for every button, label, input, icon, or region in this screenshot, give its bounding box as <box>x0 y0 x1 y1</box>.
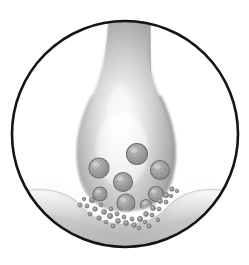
neurotransmitter-particle <box>102 210 107 215</box>
synaptic-vesicle <box>151 161 170 180</box>
neurotransmitter-particle <box>143 220 147 224</box>
neurotransmitter-particle <box>82 197 85 200</box>
neurotransmitter-particle <box>144 212 149 217</box>
synaptic-vesicle <box>127 144 148 165</box>
neurotransmitter-particle <box>170 187 174 191</box>
neurotransmitter-particle <box>169 194 173 198</box>
neurotransmitter-particle <box>150 213 154 217</box>
neurotransmitter-particle <box>156 218 160 222</box>
neurotransmitter-particle <box>93 207 98 212</box>
synapse-illustration: Chemical synapse cross-section <box>0 0 249 265</box>
synaptic-vesicle <box>89 158 109 178</box>
neurotransmitter-particle <box>99 203 103 207</box>
synaptic-vesicle <box>93 187 107 201</box>
neurotransmitter-particle <box>104 220 108 224</box>
neurotransmitter-particle <box>137 226 141 230</box>
neurotransmitter-particle <box>107 213 112 218</box>
neurotransmitter-particle <box>158 199 163 204</box>
neurotransmitter-particle <box>124 221 129 226</box>
synaptic-vesicle <box>117 194 135 212</box>
neurotransmitter-particle <box>122 215 126 219</box>
neurotransmitter-particle <box>116 219 121 224</box>
neurotransmitter-particle <box>109 207 113 211</box>
neurotransmitter-particle <box>137 216 142 221</box>
neurotransmitter-particle <box>115 212 119 216</box>
neurotransmitter-particle <box>163 192 168 197</box>
neurotransmitter-particle <box>132 223 137 228</box>
neurotransmitter-particle <box>97 216 101 220</box>
neurotransmitter-particle <box>147 224 151 228</box>
neurotransmitter-particle <box>157 207 161 211</box>
neurotransmitter-particle <box>175 189 178 192</box>
neurotransmitter-particle <box>130 217 134 221</box>
neurotransmitter-particle <box>88 212 92 216</box>
synaptic-vesicle <box>114 173 133 192</box>
neurotransmitter-particle <box>89 197 94 202</box>
neurotransmitter-particle <box>164 200 168 204</box>
neurotransmitter-particle <box>111 224 115 228</box>
neurotransmitter-particle <box>78 203 82 207</box>
neurotransmitter-particle <box>151 206 156 211</box>
neurotransmitter-particle <box>85 204 89 208</box>
synapse-diagram-canvas <box>0 0 249 265</box>
